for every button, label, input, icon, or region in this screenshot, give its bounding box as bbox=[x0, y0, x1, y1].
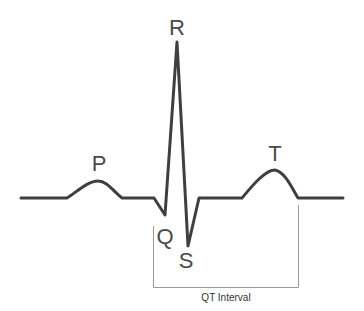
qt-interval-bracket bbox=[154, 205, 299, 288]
ecg-trace bbox=[21, 42, 343, 246]
label-s: S bbox=[179, 250, 194, 272]
qt-interval-label: QT Interval bbox=[201, 293, 250, 303]
label-q: Q bbox=[156, 226, 173, 248]
label-t: T bbox=[268, 143, 281, 165]
label-p: P bbox=[92, 153, 107, 175]
label-r: R bbox=[169, 17, 185, 39]
